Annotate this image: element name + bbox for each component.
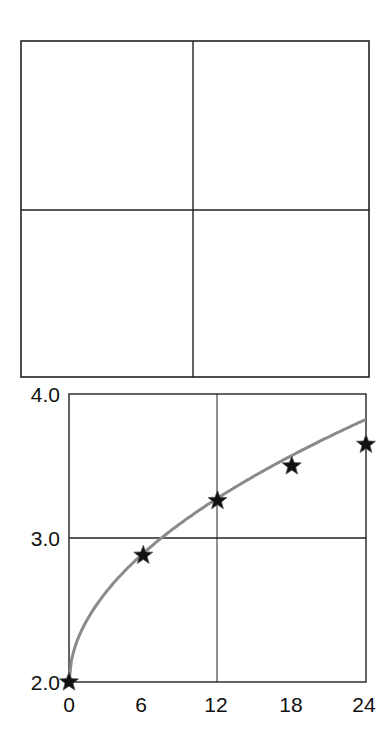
x-tick-label: 6 bbox=[135, 693, 147, 716]
top-panel-frame bbox=[21, 41, 369, 377]
x-tick-label: 24 bbox=[352, 693, 376, 716]
top-grid-panel bbox=[21, 41, 369, 377]
x-tick-label: 12 bbox=[204, 693, 227, 716]
x-tick-label: 18 bbox=[279, 693, 302, 716]
y-tick-label: 4.0 bbox=[31, 383, 60, 406]
line-chart: 4.0 3.0 2.0 0 6 12 18 24 bbox=[31, 383, 376, 716]
figure: 4.0 3.0 2.0 0 6 12 18 24 bbox=[0, 0, 392, 750]
x-tick-label: 0 bbox=[63, 693, 75, 716]
star-marker-icon bbox=[60, 672, 79, 690]
y-tick-label: 3.0 bbox=[31, 527, 60, 550]
y-tick-label: 2.0 bbox=[31, 671, 60, 694]
